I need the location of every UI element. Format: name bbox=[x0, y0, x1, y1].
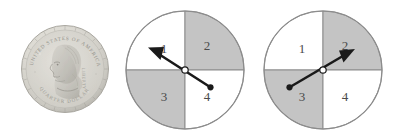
spinner-1[interactable]: 1 2 3 4 bbox=[124, 9, 246, 131]
spinner-2-label-1: 1 bbox=[299, 41, 306, 56]
spinner-2-pointer-tail-dot bbox=[286, 84, 292, 90]
coin-motto-liberty: LIBERTY bbox=[81, 68, 87, 90]
spinner-1-sector-3[interactable] bbox=[126, 70, 185, 129]
spinner-2-label-3: 3 bbox=[299, 89, 306, 104]
spinner-1-pivot bbox=[182, 67, 188, 73]
spinner-1-sector-2[interactable] bbox=[185, 11, 244, 70]
spinner-1-graphic[interactable]: 1 2 3 4 bbox=[124, 9, 246, 131]
spinner-1-label-4: 4 bbox=[204, 89, 211, 104]
coin-graphic: UNITED STATES OF AMERICA QUARTER DOLLAR … bbox=[20, 24, 110, 114]
spinner-1-sector-1[interactable] bbox=[126, 11, 185, 70]
spinner-2-pivot bbox=[320, 67, 326, 73]
spinner-2-graphic[interactable]: 1 2 3 4 bbox=[262, 9, 384, 131]
spinner-1-label-2: 2 bbox=[204, 38, 211, 53]
spinner-2-sector-1[interactable] bbox=[264, 11, 323, 70]
spinner-1-pointer-tail-dot bbox=[207, 84, 213, 90]
spinner-2-sector-3[interactable] bbox=[264, 70, 323, 129]
spinner-2-label-4: 4 bbox=[342, 89, 349, 104]
spinner-1-label-3: 3 bbox=[161, 89, 168, 104]
figure-stage: UNITED STATES OF AMERICA QUARTER DOLLAR … bbox=[0, 0, 396, 140]
spinner-2-sector-4[interactable] bbox=[323, 70, 382, 129]
quarter-coin: UNITED STATES OF AMERICA QUARTER DOLLAR … bbox=[20, 24, 110, 114]
spinner-2[interactable]: 1 2 3 4 bbox=[262, 9, 384, 131]
spinner-1-sector-4[interactable] bbox=[185, 70, 244, 129]
